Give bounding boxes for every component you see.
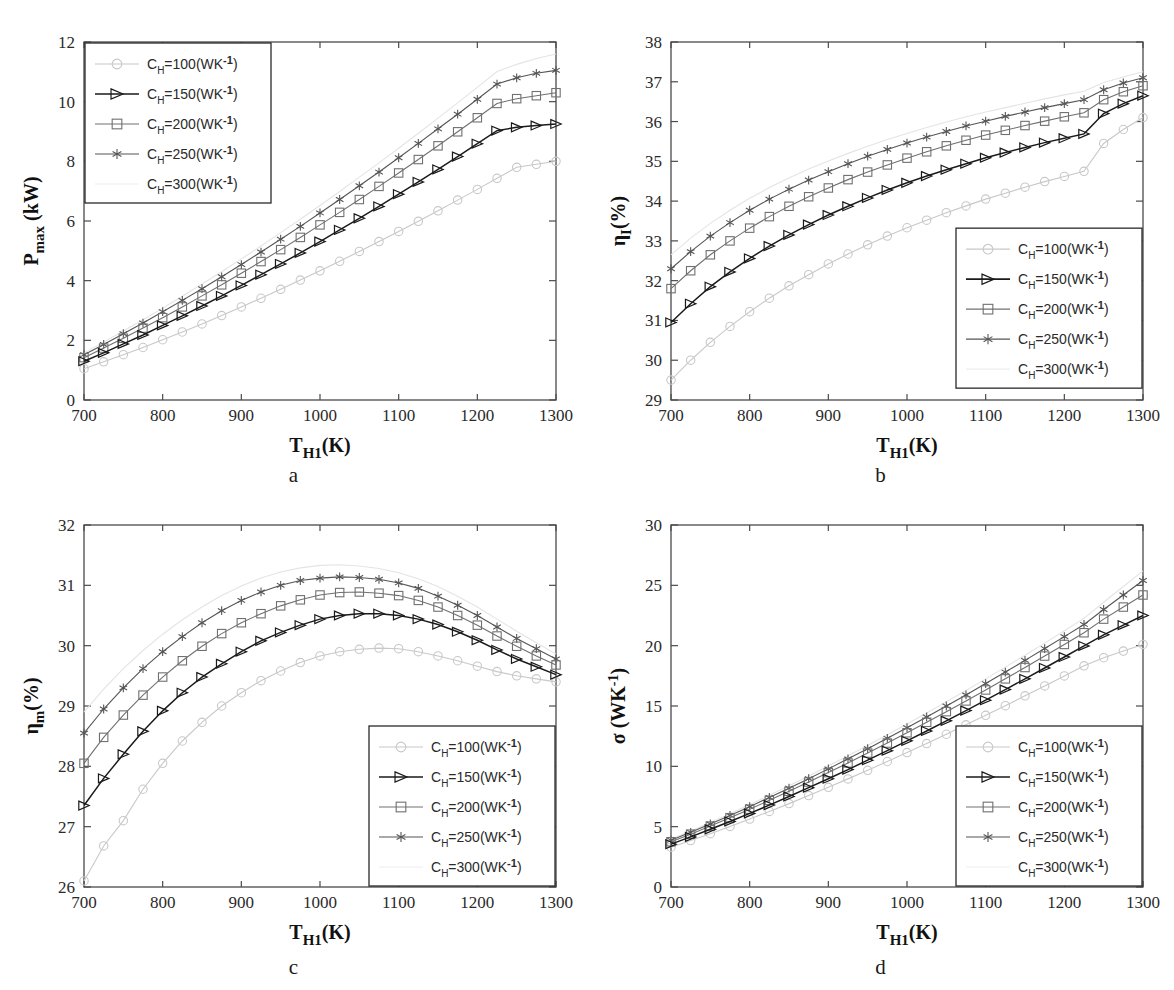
y-tick-label: 2: [67, 331, 76, 350]
legend-box: CH=100(WK-1)CH=150(WK-1)CH=200(WK-1)CH=2…: [956, 228, 1142, 388]
y-axis-label: σ (WK-1): [606, 668, 630, 744]
y-tick-label: 10: [645, 757, 662, 776]
y-tick-label: 28: [58, 757, 75, 776]
panel-b: 7008009001000110012001300293031323334353…: [587, 0, 1174, 495]
y-tick-label: 20: [645, 637, 662, 656]
x-tick-label: 1100: [969, 893, 1002, 912]
panel-d: 7008009001000110012001300051015202530TH1…: [587, 495, 1174, 990]
y-tick-label: 32: [645, 272, 662, 291]
panel-a: 7008009001000110012001300024681012TH1(K)…: [0, 0, 587, 495]
y-tick-label: 8: [67, 152, 76, 171]
x-tick-label: 1000: [303, 406, 337, 425]
y-axis-label: ηI(%): [607, 196, 634, 247]
x-tick-label: 1200: [1047, 406, 1081, 425]
panel-c-letter: c: [0, 955, 587, 980]
x-tick-label: 1100: [382, 406, 415, 425]
x-tick-label: 700: [658, 893, 684, 912]
x-tick-label: 700: [71, 893, 97, 912]
x-tick-label: 1000: [303, 893, 337, 912]
y-tick-label: 26: [58, 878, 75, 897]
x-tick-label: 800: [737, 406, 763, 425]
y-axis-label: ηm(%): [20, 677, 47, 734]
x-tick-label: 1200: [1047, 893, 1081, 912]
panel-a-chart: 7008009001000110012001300024681012TH1(K)…: [0, 0, 587, 495]
panel-a-letter: a: [0, 463, 587, 488]
x-tick-label: 1100: [382, 893, 415, 912]
x-tick-label: 800: [737, 893, 763, 912]
x-tick-label: 1300: [539, 406, 573, 425]
y-tick-label: 15: [645, 697, 662, 716]
y-tick-label: 30: [645, 516, 662, 535]
x-tick-label: 1100: [969, 406, 1002, 425]
y-tick-label: 27: [58, 818, 76, 837]
legend-box: CH=100(WK-1)CH=150(WK-1)CH=200(WK-1)CH=2…: [85, 43, 271, 203]
x-tick-label: 1300: [539, 893, 573, 912]
y-tick-label: 12: [58, 33, 75, 52]
y-tick-label: 36: [645, 113, 662, 132]
panel-c-chart: 700800900100011001200130026272829303132T…: [0, 495, 587, 990]
x-tick-label: 1200: [460, 406, 494, 425]
y-tick-label: 30: [58, 637, 75, 656]
y-tick-label: 30: [645, 351, 662, 370]
x-tick-label: 1000: [890, 406, 924, 425]
y-tick-label: 37: [645, 73, 663, 92]
panel-d-letter: d: [587, 955, 1174, 980]
x-tick-label: 1000: [890, 893, 924, 912]
x-tick-label: 1300: [1126, 893, 1160, 912]
y-tick-label: 0: [67, 391, 76, 410]
x-axis-label: TH1(K): [289, 921, 350, 948]
x-tick-label: 700: [71, 406, 97, 425]
y-tick-label: 5: [654, 818, 663, 837]
x-tick-label: 700: [658, 406, 684, 425]
x-tick-label: 900: [229, 893, 255, 912]
x-tick-label: 900: [816, 893, 842, 912]
legend-box: CH=100(WK-1)CH=150(WK-1)CH=200(WK-1)CH=2…: [956, 726, 1142, 886]
x-tick-label: 800: [150, 893, 176, 912]
legend-box: CH=100(WK-1)CH=150(WK-1)CH=200(WK-1)CH=2…: [369, 726, 555, 886]
y-axis-label: Pmax (kW): [20, 176, 47, 265]
y-tick-label: 31: [58, 576, 75, 595]
panel-b-letter: b: [587, 463, 1174, 488]
x-tick-label: 900: [816, 406, 842, 425]
y-tick-label: 0: [654, 878, 663, 897]
x-axis-label: TH1(K): [876, 921, 937, 948]
x-tick-label: 900: [229, 406, 255, 425]
y-tick-label: 38: [645, 33, 662, 52]
y-tick-label: 34: [645, 192, 663, 211]
x-axis-label: TH1(K): [289, 434, 350, 461]
y-tick-label: 33: [645, 232, 662, 251]
y-tick-label: 32: [58, 516, 75, 535]
y-tick-label: 29: [645, 391, 662, 410]
figure-panel-grid: 7008009001000110012001300024681012TH1(K)…: [0, 0, 1174, 990]
x-tick-label: 1300: [1126, 406, 1160, 425]
y-tick-label: 31: [645, 311, 662, 330]
x-tick-label: 1200: [460, 893, 494, 912]
y-tick-label: 4: [67, 272, 76, 291]
series-line: [84, 565, 556, 712]
panel-c: 700800900100011001200130026272829303132T…: [0, 495, 587, 990]
x-tick-label: 800: [150, 406, 176, 425]
panel-b-chart: 7008009001000110012001300293031323334353…: [587, 0, 1174, 495]
x-axis-label: TH1(K): [876, 434, 937, 461]
series-line: [80, 572, 560, 737]
panel-d-chart: 7008009001000110012001300051015202530TH1…: [587, 495, 1174, 990]
y-tick-label: 6: [67, 212, 76, 231]
y-tick-label: 29: [58, 697, 75, 716]
y-tick-label: 10: [58, 93, 75, 112]
y-tick-label: 35: [645, 152, 662, 171]
y-tick-label: 25: [645, 576, 662, 595]
